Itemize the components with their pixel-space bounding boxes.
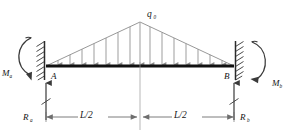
reaction-b-text: R [239, 112, 246, 122]
reaction-b-label: R b [239, 112, 250, 123]
reaction-a-label: R a [22, 112, 33, 123]
beam-diagram-canvas: q 0 [0, 0, 293, 134]
beam-diagram: q 0 [0, 0, 293, 134]
load-magnitude-text: q [147, 9, 152, 19]
dimension-right: L/2 [143, 109, 234, 120]
reaction-b-subscript: b [247, 117, 250, 123]
load-magnitude-label: q 0 [147, 9, 157, 20]
dimension-left-label: L/2 [79, 110, 93, 120]
moment-b-arc [252, 41, 266, 80]
moment-b-subscript: b [280, 83, 283, 89]
node-label-b: B [224, 71, 230, 81]
node-label-a: A [50, 71, 57, 81]
moment-a-arc [19, 37, 32, 75]
moment-b-label: M b [271, 78, 283, 89]
reaction-a-text: R [22, 112, 29, 122]
load-magnitude-subscript: 0 [154, 14, 157, 20]
reaction-a-subscript: a [30, 117, 33, 123]
moment-a-subscript: a [10, 73, 13, 79]
moment-a-label: M a [1, 68, 13, 79]
fixed-support-left [37, 41, 45, 80]
dimension-left: L/2 [47, 109, 138, 120]
fixed-support-right [236, 41, 244, 80]
distributed-load-arrows [58, 23, 222, 65]
dimension-right-label: L/2 [173, 110, 187, 120]
